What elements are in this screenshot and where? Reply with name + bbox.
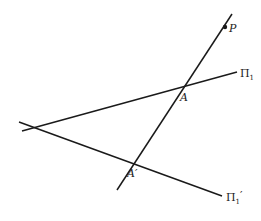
- point-p-label: P: [228, 22, 237, 35]
- svg-text:Π1: Π1: [240, 67, 254, 82]
- plane-pi1-trace: [22, 72, 237, 131]
- point-a-prime-label: A′: [126, 167, 138, 180]
- point-p-dot: [223, 25, 227, 29]
- svg-text:Π1′: Π1′: [226, 189, 243, 206]
- plane-pi1-prime-label: Π1′: [226, 189, 243, 206]
- plane-pi1-label: Π1: [240, 67, 254, 82]
- point-a-label: A: [179, 91, 188, 104]
- projection-diagram: P A A′ Π1 Π1′: [0, 0, 261, 221]
